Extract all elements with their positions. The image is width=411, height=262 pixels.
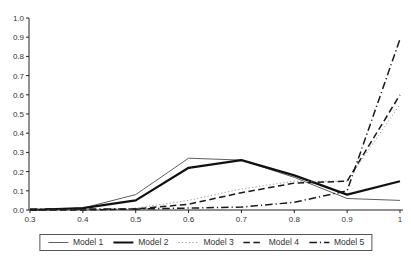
legend-item-model-3: Model 3 xyxy=(177,237,233,248)
x-tick-label: 0.6 xyxy=(183,215,195,224)
legend-swatch-solid-line-icon xyxy=(47,238,69,247)
legend-swatch-dotted-line-icon xyxy=(177,238,199,247)
legend-label: Model 4 xyxy=(269,237,299,248)
x-tick-label: 0.3 xyxy=(24,215,36,224)
x-tick-label: 0.9 xyxy=(342,215,354,224)
x-tick-label: 0.4 xyxy=(77,215,89,224)
legend-item-model-1: Model 1 xyxy=(47,237,103,248)
y-tick-label: 0.6 xyxy=(13,91,25,100)
x-tick-label: 0.5 xyxy=(130,215,142,224)
y-tick-label: 0.5 xyxy=(13,110,25,119)
legend-label: Model 2 xyxy=(138,237,168,248)
legend-swatch-dash-dot-line-icon xyxy=(308,238,330,247)
legend-item-model-2: Model 2 xyxy=(112,237,168,248)
plot-area: 0.00.10.20.30.40.50.60.70.80.91.00.30.40… xyxy=(0,0,411,232)
y-tick-label: 0.2 xyxy=(13,168,25,177)
y-tick-label: 1.0 xyxy=(13,14,25,23)
y-tick-label: 0.0 xyxy=(13,206,25,215)
legend-item-model-5: Model 5 xyxy=(308,237,364,248)
series-line-model-5 xyxy=(30,39,400,209)
chart-legend: Model 1Model 2Model 3Model 4Model 5 xyxy=(39,234,372,251)
x-tick-label: 0.7 xyxy=(236,215,248,224)
y-tick-label: 0.8 xyxy=(13,52,25,61)
line-chart: 0.00.10.20.30.40.50.60.70.80.91.00.30.40… xyxy=(0,0,411,262)
series-line-model-2 xyxy=(30,160,400,210)
legend-swatch-dashed-line-icon xyxy=(243,238,265,247)
y-tick-label: 0.4 xyxy=(13,129,25,138)
series-line-model-1 xyxy=(30,158,400,210)
y-tick-label: 0.1 xyxy=(13,187,25,196)
x-tick-label: 0.8 xyxy=(289,215,301,224)
legend-item-model-4: Model 4 xyxy=(243,237,299,248)
legend-label: Model 3 xyxy=(203,237,233,248)
y-tick-label: 0.7 xyxy=(13,72,25,81)
legend-swatch-solid-line-icon xyxy=(112,238,134,247)
y-tick-label: 0.3 xyxy=(13,148,25,157)
legend-label: Model 1 xyxy=(73,237,103,248)
legend-label: Model 5 xyxy=(334,237,364,248)
x-tick-label: 1 xyxy=(398,215,403,224)
y-tick-label: 0.9 xyxy=(13,33,25,42)
